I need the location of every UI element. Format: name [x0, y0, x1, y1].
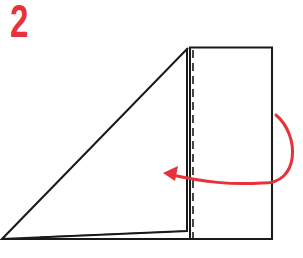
arrow-head-icon: [163, 166, 178, 181]
fold-diagram: [0, 0, 303, 258]
rectangle-panel: [190, 48, 272, 240]
folded-triangle: [2, 48, 190, 239]
